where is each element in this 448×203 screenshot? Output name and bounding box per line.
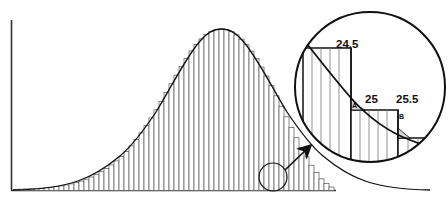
- figure-container: 24.5 25 25.5 A B: [0, 0, 448, 203]
- bar-step-1: [303, 48, 351, 173]
- label-region-a: A: [352, 102, 357, 109]
- label-24-5: 24.5: [336, 38, 359, 50]
- label-region-b: B: [399, 113, 404, 120]
- label-25: 25: [365, 93, 378, 105]
- main-histogram: [11, 20, 430, 191]
- label-25-5: 25.5: [396, 93, 419, 105]
- bar-step-3: [398, 138, 434, 173]
- normal-approximation-figure: 24.5 25 25.5 A B: [0, 0, 448, 203]
- magnifier-callout: 24.5 25 25.5 A B: [295, 12, 446, 173]
